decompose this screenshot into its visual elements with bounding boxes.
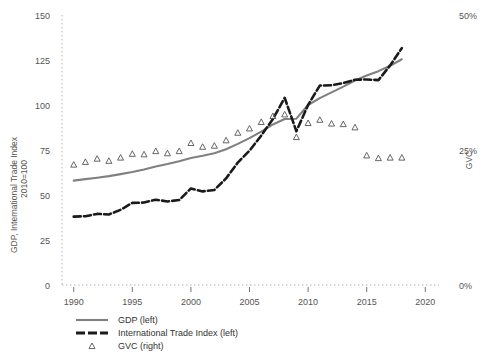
gvc-data-point <box>71 162 77 168</box>
legend-entry-label: GVC (right) <box>118 341 164 351</box>
y2-axis-tick-label: 0% <box>459 281 472 291</box>
gvc-data-point <box>141 151 147 157</box>
left-axis: 0255075100125150 <box>35 11 50 291</box>
x-axis-tick-label: 2020 <box>415 297 435 307</box>
gvc-data-point <box>164 150 170 156</box>
y2-axis-tick-label: 50% <box>459 11 477 21</box>
gvc-data-point <box>352 124 358 130</box>
y-axis-title-line2: 2010=100 <box>19 160 29 198</box>
y-axis-tick-label: 0 <box>45 281 50 291</box>
legend-entry-label: International Trade Index (left) <box>118 328 238 338</box>
gvc-data-point <box>375 155 381 161</box>
x-axis-tick-label: 1990 <box>64 297 84 307</box>
chart-canvas: 02550751001251500%25%50%1990199520002005… <box>0 0 489 363</box>
gvc-data-point <box>94 156 100 162</box>
y-axis-tick-label: 75 <box>40 146 50 156</box>
x-axis: 1990199520002005201020152020 <box>62 285 439 307</box>
legend-entry-label: GDP (left) <box>118 315 158 325</box>
gvc-data-point <box>223 137 229 143</box>
y-axis-tick-label: 100 <box>35 101 50 111</box>
y-axis-tick-label: 125 <box>35 56 50 66</box>
legend-swatch-gvc <box>89 343 95 349</box>
right-axis: 0%25%50% <box>459 11 477 291</box>
x-axis-tick-label: 2010 <box>298 297 318 307</box>
y-axis-tick-label: 50 <box>40 191 50 201</box>
y2-axis-title: GVC <box>464 151 474 169</box>
y-axis-tick-label: 25 <box>40 236 50 246</box>
y-axis-tick-label: 150 <box>35 11 50 21</box>
series-group <box>71 48 405 216</box>
gvc-data-point <box>329 121 335 127</box>
gvc-data-point <box>387 155 393 161</box>
gvc-data-point <box>247 125 253 131</box>
gvc-data-point <box>305 120 311 126</box>
gvc-marker-group <box>71 111 405 167</box>
x-axis-tick-label: 1995 <box>122 297 142 307</box>
gvc-data-point <box>340 121 346 127</box>
x-axis-tick-label: 2000 <box>181 297 201 307</box>
gvc-data-point <box>129 151 135 157</box>
gvc-data-point <box>200 144 206 150</box>
gvc-data-point <box>176 148 182 154</box>
gvc-data-point <box>82 159 88 165</box>
x-axis-tick-label: 2015 <box>357 297 377 307</box>
chart-legend: GDP (left)International Trade Index (lef… <box>76 315 238 351</box>
gvc-data-point <box>399 155 405 161</box>
gvc-data-point <box>317 117 323 123</box>
gvc-data-point <box>282 111 288 117</box>
gvc-data-point <box>153 148 159 154</box>
chart-figure: 02550751001251500%25%50%1990199520002005… <box>0 0 489 363</box>
gvc-data-point <box>188 140 194 146</box>
y-axis-title: GDP, International Trade Index <box>9 136 19 253</box>
gvc-data-point <box>364 152 370 158</box>
axis-titles: GDP, International Trade Index2010=100GV… <box>9 136 474 253</box>
gvc-data-point <box>211 143 217 149</box>
gvc-data-point <box>293 134 299 140</box>
trade-index-line <box>74 48 402 216</box>
x-axis-tick-label: 2005 <box>239 297 259 307</box>
gvc-data-point <box>118 155 124 161</box>
gvc-data-point <box>235 130 241 136</box>
gvc-data-point <box>106 158 112 164</box>
gvc-data-point <box>258 119 264 125</box>
